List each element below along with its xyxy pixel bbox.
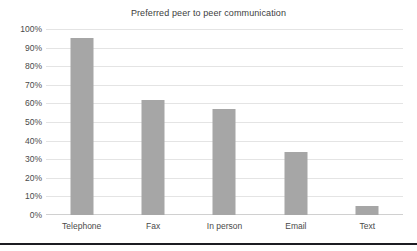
- y-axis-tick-label: 20%: [0, 173, 42, 183]
- y-axis-tick-label: 100%: [0, 24, 42, 34]
- x-axis-tick-label: Telephone: [46, 221, 117, 231]
- x-axis: TelephoneFaxIn personEmailText: [46, 0, 403, 251]
- y-axis-tick-label: 10%: [0, 191, 42, 201]
- y-axis-tick-label: 50%: [0, 117, 42, 127]
- y-axis-tick-label: 70%: [0, 80, 42, 90]
- bottom-divider: [0, 243, 417, 245]
- bar-chart: Preferred peer to peer communication 100…: [0, 0, 417, 251]
- y-axis-tick-label: 80%: [0, 61, 42, 71]
- x-axis-tick-label: Email: [260, 221, 331, 231]
- y-axis-tick-label: 60%: [0, 98, 42, 108]
- y-axis-tick-label: 90%: [0, 43, 42, 53]
- x-axis-tick-label: Fax: [117, 221, 188, 231]
- y-axis: 100%90%80%70%60%50%40%30%20%10%0%: [0, 29, 42, 215]
- x-axis-tick-label: Text: [332, 221, 403, 231]
- x-axis-tick-label: In person: [189, 221, 260, 231]
- y-axis-tick-label: 0%: [0, 210, 42, 220]
- y-axis-tick-label: 30%: [0, 154, 42, 164]
- y-axis-tick-label: 40%: [0, 136, 42, 146]
